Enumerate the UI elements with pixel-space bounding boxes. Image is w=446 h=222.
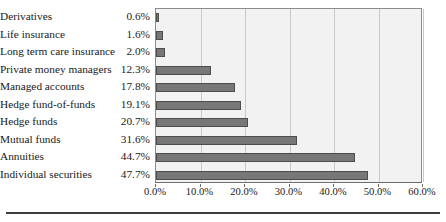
category-row: Mutual funds31.6% [0, 131, 152, 149]
x-axis-line [155, 182, 422, 183]
category-label: Hedge funds [0, 116, 57, 127]
bar-slot [156, 62, 211, 80]
category-value-label: 1.6% [126, 29, 150, 40]
category-value-label: 47.7% [121, 169, 150, 180]
bar [156, 136, 297, 145]
bar-slot [156, 97, 241, 115]
category-value-label: 2.0% [126, 46, 150, 57]
x-tick-label: 40.0% [319, 187, 346, 198]
bar [156, 66, 211, 75]
gridline [423, 9, 424, 182]
category-value-label: 0.6% [126, 11, 150, 22]
category-row: Hedge funds20.7% [0, 113, 152, 131]
category-row: Annuities44.7% [0, 148, 152, 166]
bar [156, 101, 241, 110]
category-label: Managed accounts [0, 81, 84, 92]
bar [156, 83, 235, 92]
x-tick-label: 50.0% [364, 187, 391, 198]
horizontal-bar-chart: Derivatives0.6%Life insurance1.6%Long te… [0, 0, 446, 222]
category-value-label: 44.7% [121, 151, 150, 162]
category-row: Managed accounts17.8% [0, 78, 152, 96]
category-label: Derivatives [0, 11, 52, 22]
category-row: Long term care insurance2.0% [0, 43, 152, 61]
x-tick-label: 30.0% [275, 187, 302, 198]
bottom-divider-rule [6, 212, 440, 214]
gridline [379, 9, 380, 182]
bar-slot [156, 27, 163, 45]
category-value-label: 31.6% [121, 134, 150, 145]
category-value-label: 12.3% [121, 64, 150, 75]
category-label: Hedge fund-of-funds [0, 99, 95, 110]
category-label: Private money managers [0, 64, 112, 75]
category-label: Mutual funds [0, 134, 61, 145]
x-tick-label: 20.0% [230, 187, 257, 198]
category-label: Individual securities [0, 169, 92, 180]
category-row: Private money managers12.3% [0, 61, 152, 79]
x-axis-ticks: 0.0%10.0%20.0%30.0%40.0%50.0%60.0% [0, 184, 446, 200]
plot-area [155, 8, 422, 183]
category-label: Long term care insurance [0, 46, 115, 57]
bar-slot [156, 132, 297, 150]
x-tick-label: 10.0% [186, 187, 213, 198]
category-value-label: 20.7% [121, 116, 150, 127]
x-tick-label: 0.0% [144, 187, 166, 198]
bar [156, 171, 368, 180]
category-value-label: 19.1% [121, 99, 150, 110]
category-label: Annuities [0, 151, 44, 162]
bar [156, 118, 248, 127]
category-row: Hedge fund-of-funds19.1% [0, 96, 152, 114]
bar-slot [156, 9, 159, 27]
category-label: Life insurance [0, 29, 65, 40]
category-row: Life insurance1.6% [0, 26, 152, 44]
category-row: Individual securities47.7% [0, 166, 152, 184]
category-value-label: 17.8% [121, 81, 150, 92]
bar-slot [156, 114, 248, 132]
bar [156, 31, 163, 40]
category-label-column: Derivatives0.6%Life insurance1.6%Long te… [0, 8, 152, 183]
category-row: Derivatives0.6% [0, 8, 152, 26]
x-tick-label: 60.0% [408, 187, 435, 198]
bar-slot [156, 79, 235, 97]
bar [156, 13, 159, 22]
bar-slot [156, 44, 165, 62]
bar [156, 153, 355, 162]
bar-slot [156, 149, 355, 167]
bar [156, 48, 165, 57]
